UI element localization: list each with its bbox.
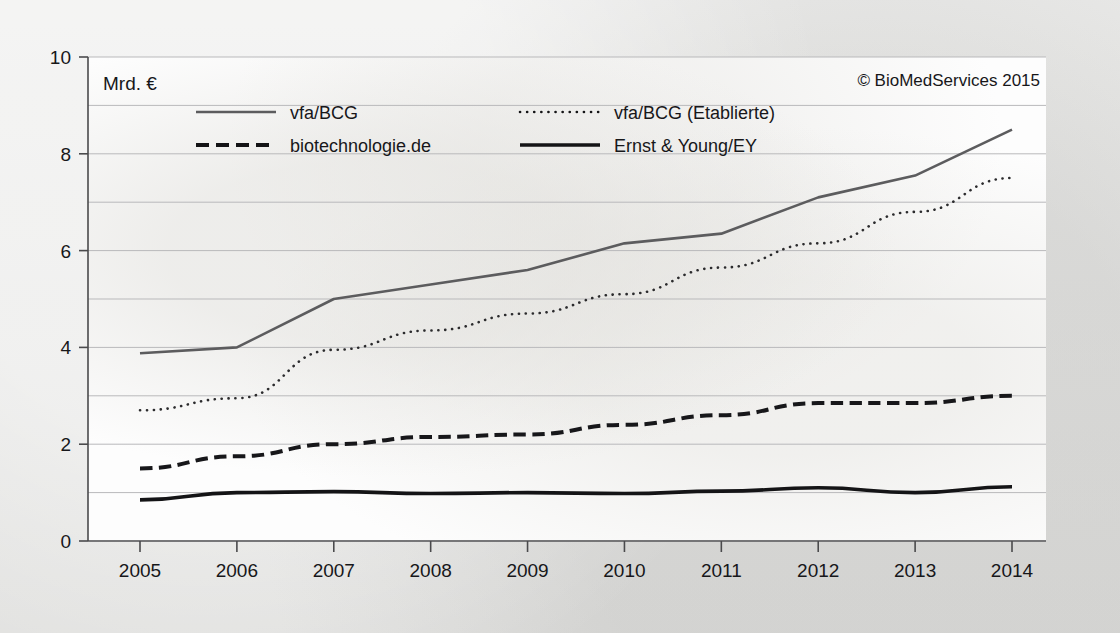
legend-label-3: Ernst & Young/EY: [614, 136, 757, 156]
series-line-1: [140, 178, 1012, 410]
y-tick-label: 2: [60, 434, 71, 455]
y-axis-ticks-group: 0246810: [50, 47, 88, 552]
y-tick-label: 6: [60, 241, 71, 262]
legend-label-2: biotechnologie.de: [290, 136, 431, 156]
x-axis-ticks-group: 2005200620072008200920102011201220132014: [119, 541, 1034, 581]
y-tick-label: 10: [50, 47, 71, 68]
y-axis-unit-label: Mrd. €: [103, 73, 157, 94]
series-line-0: [140, 130, 1012, 354]
series-line-3: [140, 487, 1012, 500]
x-tick-label: 2007: [313, 560, 355, 581]
line-chart: 0246810 20052006200720082009201020112012…: [0, 0, 1120, 633]
x-tick-label: 2008: [410, 560, 452, 581]
x-tick-label: 2011: [701, 560, 742, 581]
chart-screenshot: 0246810 20052006200720082009201020112012…: [0, 0, 1120, 633]
x-tick-label: 2006: [216, 560, 258, 581]
legend-label-0: vfa/BCG: [290, 103, 358, 123]
y-tick-label: 4: [60, 337, 71, 358]
legend: vfa/BCGvfa/BCG (Etablierte)biotechnologi…: [196, 103, 775, 156]
y-tick-label: 0: [60, 531, 71, 552]
series-line-2: [140, 396, 1012, 469]
x-tick-label: 2014: [991, 560, 1034, 581]
gridlines-group: [88, 57, 1046, 493]
copyright-label: © BioMedServices 2015: [857, 71, 1040, 90]
x-tick-label: 2012: [797, 560, 839, 581]
x-tick-label: 2013: [894, 560, 936, 581]
x-tick-label: 2009: [506, 560, 548, 581]
x-tick-label: 2005: [119, 560, 161, 581]
x-tick-label: 2010: [603, 560, 645, 581]
y-tick-label: 8: [60, 144, 71, 165]
legend-label-1: vfa/BCG (Etablierte): [614, 103, 775, 123]
